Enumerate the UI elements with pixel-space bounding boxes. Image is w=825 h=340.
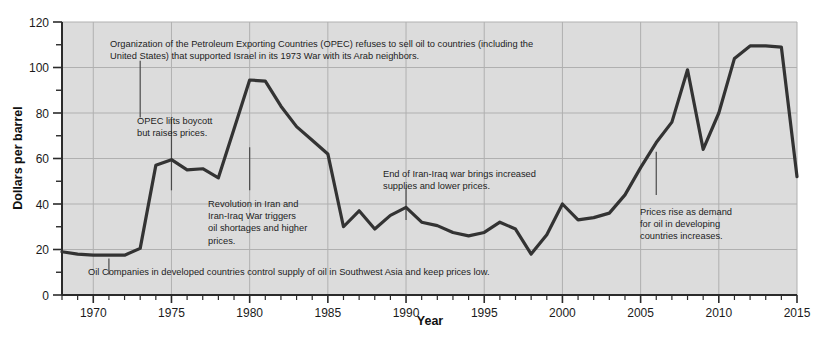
x-tick-label: 2005 <box>627 306 654 320</box>
x-tick-label: 1995 <box>471 306 498 320</box>
annotation-text-line: Iran-Iraq War triggers <box>208 211 296 221</box>
y-tick-label: 20 <box>36 243 50 257</box>
x-tick-label: 1975 <box>158 306 185 320</box>
annotation-text-line: for oil in developing <box>640 219 720 229</box>
x-tick-label: 1985 <box>314 306 341 320</box>
y-tick-label: 40 <box>36 198 50 212</box>
annotation-text-line: Oil Companies in developed countries con… <box>88 267 490 277</box>
annotation-text-line: United States) that supported Israel in … <box>110 51 419 61</box>
annotation-text-line: Organization of the Petroleum Exporting … <box>110 39 533 49</box>
y-tick-label: 0 <box>42 289 49 303</box>
chart-canvas: 020406080100120 197019751980198519901995… <box>0 0 825 340</box>
annotation-text-line: oil shortages and higher <box>208 223 307 233</box>
annotation-text-line: countries increases. <box>640 231 723 241</box>
x-tick-label: 1980 <box>236 306 263 320</box>
x-tick-label: 2015 <box>784 306 811 320</box>
x-axis-title: Year <box>417 314 444 328</box>
y-tick-label: 120 <box>29 16 49 30</box>
annotation-text-line: supplies and lower prices. <box>383 181 490 191</box>
annotation-text-line: but raises prices. <box>137 128 207 138</box>
x-tick-label: 2010 <box>705 306 732 320</box>
y-tick-label: 60 <box>36 152 50 166</box>
x-tick-label: 1990 <box>393 306 420 320</box>
y-tick-label: 100 <box>29 61 49 75</box>
annotation-text-line: Revolution in Iran and <box>208 199 298 209</box>
x-tick-label: 2000 <box>549 306 576 320</box>
x-tick-label: 1970 <box>80 306 107 320</box>
annotation-text-line: prices. <box>208 236 235 246</box>
y-axis-title: Dollars per barrel <box>11 106 25 210</box>
annotation-text-line: Prices rise as demand <box>640 207 732 217</box>
y-tick-label: 80 <box>36 107 50 121</box>
annotation-text-line: End of Iran-Iraq war brings increased <box>383 169 536 179</box>
oil-price-chart-figure: 020406080100120 197019751980198519901995… <box>0 0 825 340</box>
annotation-text-line: OPEC lifts boycott <box>137 116 213 126</box>
